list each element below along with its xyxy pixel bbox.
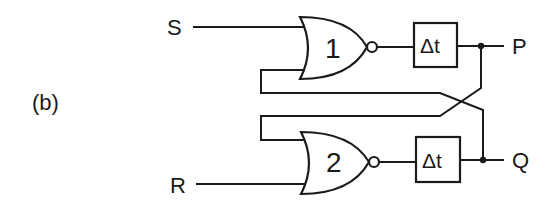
delay-block-top: Δt xyxy=(414,23,457,67)
output-label-p: P xyxy=(512,34,527,59)
nor-gate-1: 1 xyxy=(300,17,377,79)
delay-label-bottom: Δt xyxy=(422,149,442,172)
nor-gate-1-bubble xyxy=(367,42,377,52)
junction-dot-q xyxy=(480,157,486,163)
output-label-q: Q xyxy=(512,148,529,173)
input-label-r: R xyxy=(170,173,186,198)
delay-label-top: Δt xyxy=(420,34,440,57)
nor-gate-2-bubble xyxy=(369,157,379,167)
nor-gate-1-label: 1 xyxy=(325,33,341,64)
nor-gate-2: 2 xyxy=(301,132,379,194)
input-label-s: S xyxy=(167,15,182,40)
junction-dot-p xyxy=(478,43,484,49)
nor-gate-2-label: 2 xyxy=(326,147,342,178)
figure-label: (b) xyxy=(32,90,59,115)
delay-block-bottom: Δt xyxy=(416,137,460,182)
sr-latch-diagram: (b) S R 1 2 Δt Δt P Q xyxy=(0,0,553,204)
